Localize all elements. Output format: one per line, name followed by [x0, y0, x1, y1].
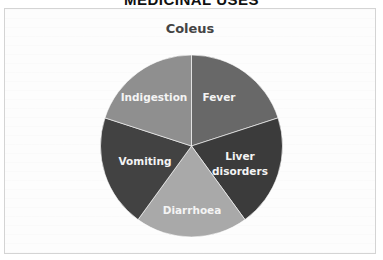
slice-label-fever: Fever: [202, 91, 236, 103]
slice-label-vomiting: Vomiting: [119, 155, 172, 167]
slice-label-indigestion: Indigestion: [121, 91, 188, 103]
slice-label-liver-line2: disorders: [212, 165, 268, 177]
slice-label-liver-line1: Liver: [225, 150, 255, 162]
slice-label-diarrhoea: Diarrhoea: [163, 204, 222, 216]
pie-chart: Fever Liver disorders Diarrhoea Vomiting…: [0, 0, 383, 260]
